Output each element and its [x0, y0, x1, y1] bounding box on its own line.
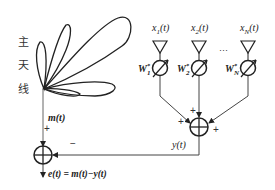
branch-n-line — [209, 76, 248, 123]
weight-label-1: W*1 — [138, 63, 150, 77]
branch-1-line — [160, 76, 190, 123]
main-plus-sign: + — [44, 124, 50, 134]
main-antenna-label-char-2: 天 — [18, 60, 29, 71]
main-lobe — [44, 17, 131, 89]
error-summing-junction — [34, 146, 52, 164]
array-output-label: y(t) — [172, 140, 186, 150]
antenna-2 — [192, 41, 206, 53]
input-label-n: xN(t) — [240, 23, 259, 36]
sum-plus-right: + — [213, 125, 219, 135]
weight-label-2: W*2 — [177, 63, 189, 77]
weight-2 — [192, 60, 208, 77]
main-signal-label: m(t) — [48, 113, 65, 123]
main-antenna-label-char-3: 线 — [18, 84, 29, 95]
sum-plus-top: + — [190, 106, 196, 116]
weight-1 — [153, 60, 169, 77]
sum-plus-left: + — [178, 117, 184, 127]
feedback-minus-sign: − — [70, 139, 76, 149]
adaptive-sidelobe-canceller-diagram — [0, 0, 275, 190]
antenna-1 — [153, 41, 167, 53]
input-label-2: x2(t) — [191, 23, 208, 36]
sidelobe-left — [37, 42, 47, 89]
main-antenna-label-char-1: 主 — [18, 37, 29, 48]
input-label-1: x1(t) — [152, 23, 169, 36]
antenna-n — [241, 41, 255, 53]
auxiliary-antennas — [153, 41, 255, 53]
weights — [153, 60, 257, 77]
array-summing-junction — [190, 118, 208, 136]
radiation-pattern-lobes — [37, 17, 131, 96]
error-label: e(t) = m(t)−y(t) — [48, 170, 107, 180]
weight-label-n: W*N — [225, 63, 239, 77]
weight-n — [241, 60, 257, 77]
ellipsis: ··· — [219, 46, 228, 55]
